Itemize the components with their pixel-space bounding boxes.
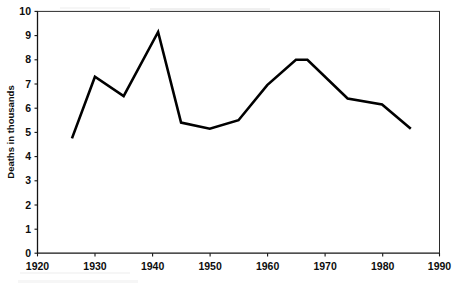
x-tick-label: 1930 — [83, 260, 107, 272]
x-tick-label: 1920 — [26, 260, 50, 272]
plot-frame — [37, 11, 440, 254]
scan-artifacts — [18, 7, 390, 283]
y-tick-label: 7 — [25, 78, 31, 90]
x-tick-label: 1940 — [141, 260, 165, 272]
figure-container: 10 9 8 7 6 5 4 3 2 1 0 1920 1930 1940 19… — [0, 0, 461, 289]
x-tick-label: 1990 — [428, 260, 452, 272]
x-tick-label: 1950 — [198, 260, 222, 272]
y-tick-label: 8 — [25, 53, 31, 65]
y-tick-label: 4 — [25, 150, 31, 162]
y-tick-label: 0 — [25, 247, 31, 259]
y-tick-label: 3 — [25, 174, 31, 186]
data-series-line — [72, 32, 411, 138]
y-axis-tick-labels: 10 9 8 7 6 5 4 3 2 1 0 — [19, 5, 31, 259]
y-axis-title: Deaths in thousands — [5, 85, 16, 178]
y-tick-label: 2 — [25, 199, 31, 211]
x-tick-label: 1970 — [313, 260, 337, 272]
y-tick-label: 9 — [25, 29, 31, 41]
y-tick-label: 6 — [25, 102, 31, 114]
y-tick-label: 5 — [25, 126, 31, 138]
y-tick-label: 1 — [25, 223, 31, 235]
x-tick-label: 1960 — [256, 260, 280, 272]
x-tick-label: 1980 — [371, 260, 395, 272]
line-chart: 10 9 8 7 6 5 4 3 2 1 0 1920 1930 1940 19… — [0, 0, 461, 289]
x-axis-tick-labels: 1920 1930 1940 1950 1960 1970 1980 1990 — [26, 260, 452, 272]
y-tick-label: 10 — [19, 5, 31, 17]
